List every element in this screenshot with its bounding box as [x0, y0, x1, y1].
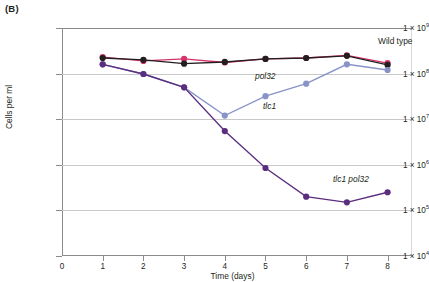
- data-point: [181, 61, 187, 67]
- data-point: [222, 59, 228, 65]
- data-point: [222, 128, 228, 134]
- data-point: [303, 81, 309, 87]
- data-point: [222, 112, 228, 118]
- data-point: [344, 199, 350, 205]
- series-label-wild-type: Wild type: [378, 36, 412, 46]
- data-point: [384, 67, 390, 73]
- data-point: [262, 56, 268, 62]
- data-point: [100, 61, 106, 67]
- data-point: [344, 53, 350, 59]
- data-point: [262, 93, 268, 99]
- data-point: [140, 57, 146, 63]
- data-point: [181, 84, 187, 90]
- data-point: [344, 61, 350, 67]
- data-point: [100, 55, 106, 61]
- data-point: [384, 189, 390, 195]
- series-label-tlc1: tlc1: [263, 101, 276, 111]
- figure-panel-b: (B) Cells per ml 1 × 1041 × 1051 × 1061 …: [0, 0, 429, 282]
- data-point: [262, 165, 268, 171]
- data-point: [303, 194, 309, 200]
- data-point: [140, 71, 146, 77]
- data-point: [303, 55, 309, 61]
- series-tlc1: [100, 61, 391, 118]
- x-axis-title: Time (days): [0, 271, 429, 281]
- series-label-tlc1-pol32: tlc1 pol32: [333, 174, 369, 184]
- series-label-pol32: pol32: [255, 71, 276, 81]
- series-layer: [0, 0, 429, 282]
